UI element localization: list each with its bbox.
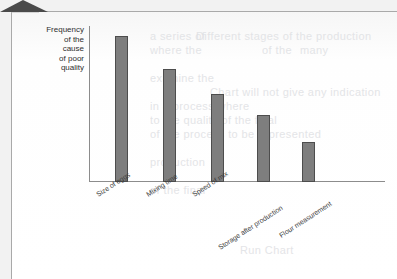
bar-chart: Frequency of the cause of poor quality S…	[0, 0, 397, 279]
bar-storage-after-production	[257, 115, 270, 182]
x-tick-label-mixing-time: Mixing time	[145, 173, 179, 198]
y-axis-label-line: Frequency	[24, 25, 84, 35]
y-axis-label-line: quality	[24, 63, 84, 73]
x-axis-line	[89, 181, 385, 182]
bar-mixing-time	[163, 69, 176, 182]
y-axis-line	[89, 26, 90, 182]
bar-size-of-eggs	[115, 36, 128, 182]
bar-speed-of-mix	[211, 94, 224, 182]
bar-flour-measurement	[302, 142, 315, 182]
x-tick-label-storage-after-production: Storage after production	[217, 204, 284, 251]
screenshot-root: a series of Different stages of the prod…	[0, 0, 397, 279]
y-axis-label: Frequency of the cause of poor quality	[24, 25, 84, 73]
x-tick-label-size-of-eggs: Size of eggs	[95, 171, 131, 198]
y-axis-label-line: of poor	[24, 54, 84, 64]
y-axis-label-line: of the	[24, 35, 84, 45]
x-tick-label-flour-measurement: Flour measurement	[278, 200, 333, 239]
y-axis-label-line: cause	[24, 44, 84, 54]
